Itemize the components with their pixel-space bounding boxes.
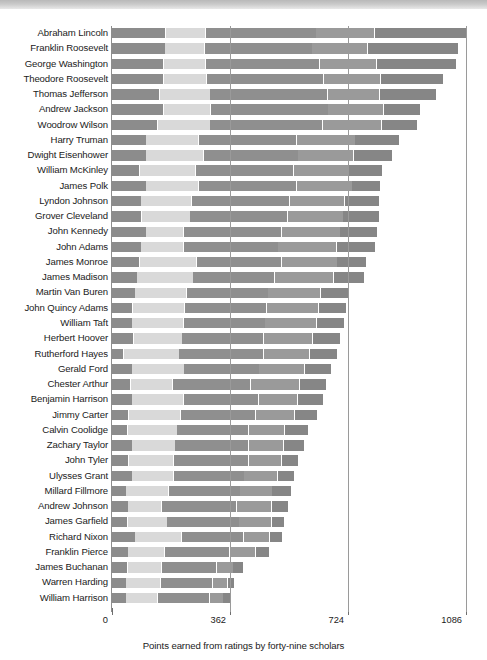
bar-segment — [295, 410, 317, 420]
bar-segment — [128, 517, 167, 527]
bar-row: Jimmy Carter — [0, 408, 487, 423]
bar-segment — [381, 74, 443, 84]
stacked-bar — [112, 318, 344, 328]
stacked-bar — [112, 486, 291, 496]
stacked-bar — [112, 501, 288, 511]
bar-segment — [142, 211, 190, 221]
bar-row: John Kennedy — [0, 224, 487, 239]
bar-segment — [129, 455, 173, 465]
bar-category-label: James Polk — [0, 179, 108, 194]
bar-segment — [177, 425, 248, 435]
bar-segment — [112, 364, 132, 374]
bar-segment — [249, 455, 281, 465]
bar-segment — [256, 547, 269, 557]
bar-segment — [294, 165, 349, 175]
bar-segment — [355, 135, 398, 145]
bar-segment — [128, 562, 161, 572]
stacked-bar — [112, 562, 243, 572]
bar-row: John Adams — [0, 240, 487, 255]
bar-category-label: Rutherford Hayes — [0, 347, 108, 362]
bar-segment — [112, 272, 137, 282]
bar-segment — [135, 532, 181, 542]
bar-segment — [185, 303, 266, 313]
bar-segment — [199, 181, 296, 191]
bar-segment — [207, 74, 324, 84]
bar-segment — [182, 532, 243, 542]
bar-segment — [244, 471, 277, 481]
bar-category-label: Jimmy Carter — [0, 408, 108, 423]
bar-segment — [132, 318, 183, 328]
bar-segment — [112, 562, 127, 572]
stacked-bar — [112, 43, 458, 53]
bar-category-label: Calvin Coolidge — [0, 423, 108, 438]
bar-segment — [112, 593, 126, 603]
bar-segment — [112, 43, 165, 53]
bar-segment — [259, 394, 298, 404]
bar-category-label: George Washington — [0, 57, 108, 72]
bar-segment — [324, 74, 380, 84]
bar-category-label: Richard Nixon — [0, 530, 108, 545]
page-top-band — [0, 0, 487, 9]
bar-segment — [251, 379, 299, 389]
bar-category-label: James Monroe — [0, 255, 108, 270]
bar-segment — [131, 379, 172, 389]
bar-segment — [210, 593, 223, 603]
bar-segment — [352, 181, 380, 191]
bar-segment — [267, 303, 319, 313]
bar-segment — [264, 333, 312, 343]
bar-segment — [112, 227, 146, 237]
bar-row: James Garfield — [0, 514, 487, 529]
bar-segment — [382, 120, 418, 130]
bar-segment — [340, 227, 377, 237]
bar-segment — [184, 394, 258, 404]
gridline — [230, 26, 231, 612]
bar-segment — [184, 227, 281, 237]
bar-segment — [282, 227, 340, 237]
tick-label: 0 — [86, 614, 108, 626]
bar-segment — [160, 89, 210, 99]
bar-segment — [146, 135, 198, 145]
bar-segment — [264, 349, 309, 359]
bar-segment — [337, 242, 375, 252]
bar-category-label: Lyndon Johnson — [0, 194, 108, 209]
bar-category-label: John Adams — [0, 240, 108, 255]
bar-segment — [132, 471, 173, 481]
bar-segment — [112, 349, 123, 359]
bar-category-label: Andrew Jackson — [0, 102, 108, 117]
bar-row: Lyndon Johnson — [0, 194, 487, 209]
bar-segment — [239, 517, 271, 527]
bar-segment — [256, 410, 294, 420]
bar-segment — [328, 89, 380, 99]
bar-segment — [112, 486, 126, 496]
stacked-bar — [112, 150, 392, 160]
bar-category-label: James Garfield — [0, 514, 108, 529]
bar-segment — [132, 440, 174, 450]
bar-segment — [173, 379, 251, 389]
stacked-bar — [112, 379, 326, 389]
stacked-bar — [112, 593, 230, 603]
bar-segment — [272, 501, 288, 511]
bar-segment — [354, 150, 392, 160]
bar-segment — [298, 150, 353, 160]
bar-segment — [128, 547, 164, 557]
bar-segment — [310, 349, 337, 359]
bar-segment — [213, 578, 227, 588]
tick-mark — [112, 608, 113, 615]
bar-row: James Polk — [0, 179, 487, 194]
bar-category-label: Theodore Roosevelt — [0, 72, 108, 87]
bar-segment — [268, 288, 320, 298]
stacked-bar — [112, 532, 282, 542]
bar-segment — [141, 242, 183, 252]
bar-segment — [230, 547, 255, 557]
bar-category-label: Abraham Lincoln — [0, 26, 108, 41]
bar-segment — [140, 165, 195, 175]
bar-segment — [312, 43, 367, 53]
bar-category-label: William McKinley — [0, 163, 108, 178]
bar-row: Calvin Coolidge — [0, 423, 487, 438]
bar-segment — [112, 425, 127, 435]
x-axis-ticks: 03627241086 — [0, 608, 487, 626]
bar-category-label: Andrew Johnson — [0, 499, 108, 514]
bar-category-label: James Madison — [0, 270, 108, 285]
bar-segment — [112, 410, 128, 420]
bar-segment — [285, 425, 308, 435]
